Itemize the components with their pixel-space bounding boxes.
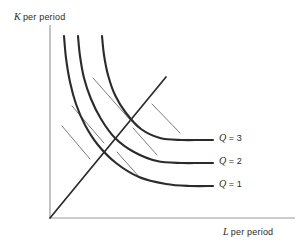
isoquant-label-q2: Q=2 xyxy=(219,155,242,166)
tangent-q1-icon xyxy=(62,126,90,159)
isoquant-label-q3-variable: Q xyxy=(219,132,227,143)
tangent-lines-group xyxy=(62,78,180,179)
x-axis-suffix: per period xyxy=(231,227,274,237)
isoquant-label-q2-value: 2 xyxy=(235,156,243,166)
axes-group xyxy=(50,25,295,218)
plot-canvas xyxy=(0,0,304,246)
tangent-q3-outer-icon xyxy=(152,104,180,133)
isoquant-label-q1-variable: Q xyxy=(219,178,227,189)
isoquant-label-q1-equals: = xyxy=(227,179,235,189)
isoquant-label-q1-value: 1 xyxy=(235,179,243,189)
isoquant-label-q1: Q=1 xyxy=(219,178,242,189)
tangent-q2-icon xyxy=(72,106,104,143)
isoquant-label-q2-equals: = xyxy=(227,156,235,166)
expansion-ray xyxy=(50,77,166,218)
isoquant-label-q3-equals: = xyxy=(227,133,235,143)
x-axis-variable: L xyxy=(223,226,231,237)
y-axis-suffix: per period xyxy=(23,12,66,22)
y-axis-label: Kper period xyxy=(14,11,65,22)
isoquant-label-q3: Q=3 xyxy=(219,132,242,143)
y-axis-variable: K xyxy=(14,11,23,22)
isoquant-label-q3-value: 3 xyxy=(235,133,243,143)
isoquant-figure: Kper period Lper period Q=3 Q=2 Q=1 xyxy=(0,0,304,246)
isoquant-label-q2-variable: Q xyxy=(219,155,227,166)
x-axis-label: Lper period xyxy=(223,226,273,237)
